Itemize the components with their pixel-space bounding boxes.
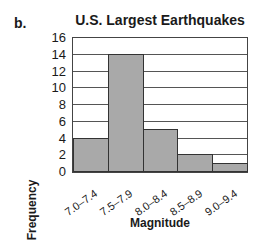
y-tick-label: 10 — [40, 81, 66, 95]
bar — [212, 163, 248, 172]
x-axis-label: Magnitude — [72, 216, 248, 230]
bar — [108, 54, 144, 172]
y-axis-label: Frequency — [25, 180, 39, 241]
gridline — [73, 87, 247, 88]
y-tick-label: 14 — [40, 48, 66, 62]
bar — [177, 154, 213, 172]
gridline — [73, 121, 247, 122]
y-tick-label: 0 — [40, 165, 66, 179]
plot-area — [72, 37, 248, 173]
chart-title: U.S. Largest Earthquakes — [72, 12, 248, 28]
y-tick-label: 8 — [40, 98, 66, 112]
y-tick-label: 4 — [40, 132, 66, 146]
panel-label: b. — [14, 15, 26, 31]
y-tick-label: 2 — [40, 148, 66, 162]
gridline — [73, 54, 247, 55]
y-tick-label: 12 — [40, 65, 66, 79]
y-tick-label: 16 — [40, 31, 66, 45]
bar — [143, 129, 179, 172]
bar — [73, 138, 109, 173]
gridline — [73, 104, 247, 105]
gridline — [73, 71, 247, 72]
y-tick-label: 6 — [40, 115, 66, 129]
